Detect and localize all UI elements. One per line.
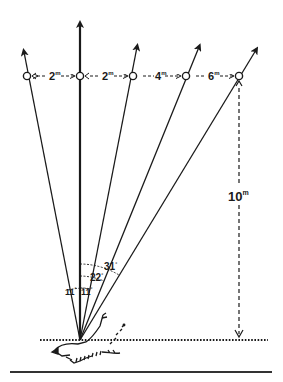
diagram-canvas: 2m 2m 4m 6m 10m 11° 11° 22° 31° [0,0,283,382]
svg-text:6m: 6m [208,70,219,82]
angle-label-3: 22 [90,272,102,283]
svg-text:2m: 2m [49,70,60,82]
svg-text:2m: 2m [102,70,113,82]
angle-label-4: 31 [104,261,116,272]
marker-circle [129,72,136,79]
angle-label-1: 11 [65,287,75,297]
ray-right-2 [80,47,199,340]
marker-circle [235,72,242,79]
svg-text:4m: 4m [155,70,166,82]
svg-text:11°: 11° [65,286,77,297]
svg-text:31°: 31° [104,261,117,272]
angle-label-2: 11 [81,287,91,297]
marker-circle [182,72,189,79]
marker-circle [23,72,30,79]
height-label: 10 [228,189,242,204]
svg-text:11°: 11° [81,286,93,297]
svg-text:10m: 10m [228,189,249,204]
marker-circle [76,72,83,79]
height-dimension [235,81,243,337]
svg-text:22°: 22° [90,272,103,283]
